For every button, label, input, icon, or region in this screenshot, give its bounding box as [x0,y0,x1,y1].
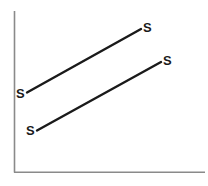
series-lower-line [37,62,161,131]
point-label-upper-left: S [16,87,25,100]
chart-canvas: S S S S [0,0,208,186]
chart-plot-area [0,0,208,186]
point-label-upper-right: S [143,21,152,34]
point-label-lower-right: S [163,54,172,67]
point-label-lower-left: S [26,124,35,137]
